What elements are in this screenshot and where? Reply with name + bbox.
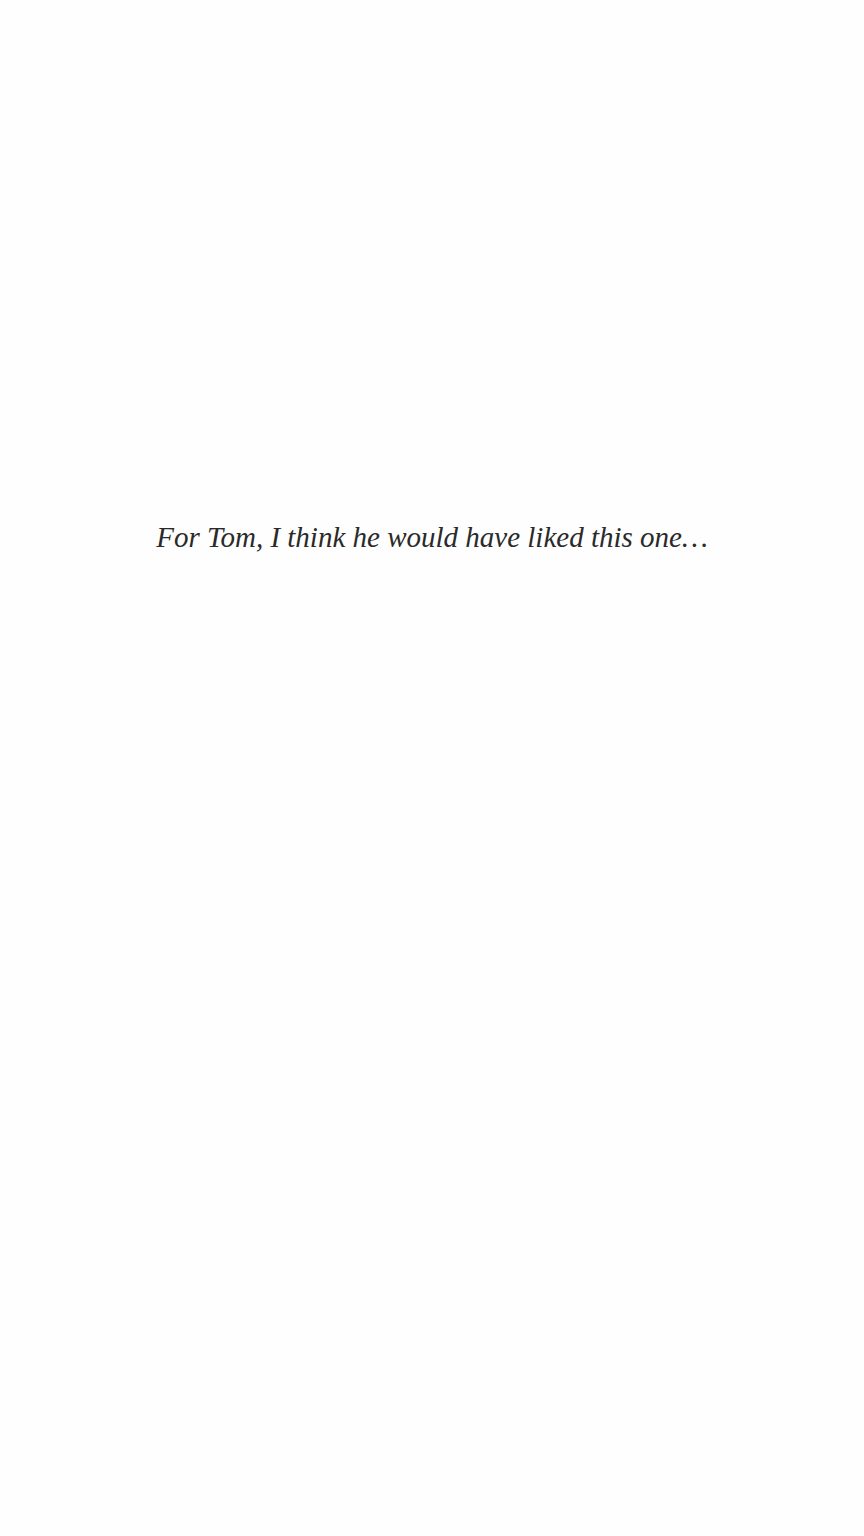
book-page: For Tom, I think he would have liked thi… (0, 0, 864, 1536)
dedication-text: For Tom, I think he would have liked thi… (0, 517, 864, 557)
